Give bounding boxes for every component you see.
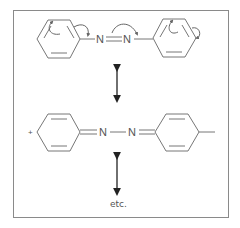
structure-quinoid bbox=[37, 114, 215, 151]
atom-n4: N bbox=[128, 126, 136, 138]
resonance-diagram: N N + N N etc. bbox=[0, 0, 240, 228]
atom-n2: N bbox=[123, 33, 131, 45]
positive-charge: + bbox=[28, 128, 33, 137]
quinoid-ring-left bbox=[37, 114, 80, 151]
benzene-ring-left bbox=[37, 20, 80, 58]
atom-n3: N bbox=[99, 126, 107, 138]
quinoid-ring-right bbox=[155, 114, 199, 151]
curved-arrow-right-ring bbox=[169, 21, 178, 33]
curved-arrow-to-bond bbox=[74, 25, 88, 35]
benzene-ring-right bbox=[153, 19, 196, 57]
structure-azobenzene bbox=[37, 19, 200, 58]
atom-n1: N bbox=[96, 33, 104, 45]
curved-arrow-left-ring bbox=[49, 22, 60, 34]
etc-label: etc. bbox=[110, 199, 127, 209]
